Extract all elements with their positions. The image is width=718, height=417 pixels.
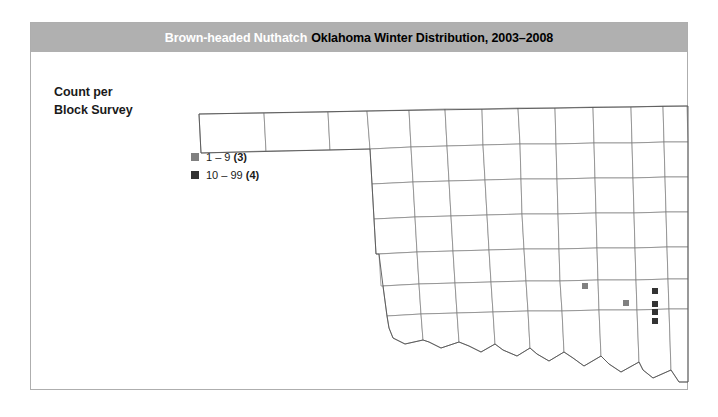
county <box>666 212 688 247</box>
county <box>491 281 528 312</box>
county <box>596 213 635 248</box>
county <box>667 247 688 279</box>
county <box>634 212 667 248</box>
county <box>417 251 455 284</box>
county <box>483 144 521 180</box>
map-marker-high <box>652 318 658 324</box>
county <box>328 111 370 150</box>
county <box>598 280 637 310</box>
county <box>557 178 596 214</box>
county <box>383 284 421 316</box>
county <box>409 109 447 147</box>
title-subject: Oklahoma Winter Distribution, 2003–2008 <box>311 31 553 45</box>
county <box>485 179 522 215</box>
county <box>558 213 597 249</box>
county <box>387 314 423 344</box>
county <box>421 313 459 348</box>
county <box>560 280 599 311</box>
county <box>457 312 495 352</box>
county <box>559 248 598 281</box>
county <box>520 144 557 179</box>
county <box>631 106 664 143</box>
county <box>595 178 634 213</box>
county <box>555 107 594 144</box>
county <box>451 215 489 251</box>
county <box>524 249 560 281</box>
map-marker-high <box>652 309 658 315</box>
map-marker-low <box>582 283 588 289</box>
county <box>594 143 633 178</box>
county <box>449 180 487 216</box>
county <box>419 283 457 314</box>
county <box>528 311 564 361</box>
county <box>664 142 688 177</box>
county <box>447 145 485 181</box>
county <box>668 279 688 309</box>
county <box>370 147 413 184</box>
title-banner: Brown-headed NuthatchOklahoma Winter Dis… <box>31 23 687 52</box>
county <box>482 108 520 145</box>
figure-panel: Brown-headed NuthatchOklahoma Winter Dis… <box>30 22 688 390</box>
county <box>633 177 666 213</box>
county <box>597 248 636 280</box>
county <box>487 214 524 250</box>
county <box>556 143 595 179</box>
county <box>489 249 526 282</box>
county <box>599 310 639 372</box>
oklahoma-county-map <box>31 52 689 390</box>
county <box>411 146 449 182</box>
county <box>526 281 562 311</box>
county <box>199 113 266 153</box>
map-marker-high <box>652 288 658 294</box>
county-layer <box>199 106 688 382</box>
county <box>562 310 601 366</box>
county <box>374 217 417 254</box>
map-marker-low <box>623 300 629 306</box>
county <box>367 110 411 149</box>
map-marker-high <box>652 301 658 307</box>
county <box>663 106 688 142</box>
title-species: Brown-headed Nuthatch <box>165 31 307 45</box>
county <box>415 216 453 252</box>
county <box>635 247 668 280</box>
county <box>522 214 559 249</box>
county <box>455 282 493 313</box>
county <box>665 177 688 212</box>
county <box>521 179 558 214</box>
county <box>632 142 665 178</box>
county <box>413 181 451 217</box>
county <box>518 108 556 144</box>
county <box>379 252 419 286</box>
county <box>593 107 632 143</box>
county <box>264 112 330 151</box>
county <box>493 311 530 356</box>
county <box>445 109 483 146</box>
county <box>372 182 415 219</box>
map-container <box>31 52 687 390</box>
county <box>453 250 491 283</box>
